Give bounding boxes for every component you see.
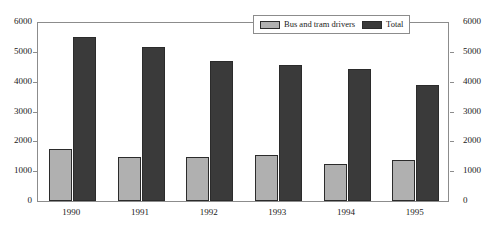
y-axis-right-tick-mark: [450, 171, 454, 172]
y-axis-left-tick-label: 2000: [2, 136, 32, 145]
y-axis-right-tick-label: 4000: [463, 77, 493, 86]
x-axis-tick-label-1990: 1990: [37, 207, 106, 217]
bar-1993-total: [279, 65, 302, 201]
y-axis-left-tick-mark: [33, 52, 37, 53]
y-axis-right-tick-label: 6000: [463, 17, 493, 26]
y-axis-left-tick-label: 1000: [2, 166, 32, 175]
bar-1991-total: [142, 47, 165, 201]
bar-1994-drivers: [324, 164, 347, 201]
bar-1992-total: [210, 61, 233, 201]
bar-1991-drivers: [118, 157, 141, 201]
y-axis-left-tick-label: 4000: [2, 77, 32, 86]
x-axis-tick-label-1992: 1992: [174, 207, 243, 217]
bar-1994-total: [348, 69, 371, 201]
legend-label: Total: [386, 20, 403, 29]
x-axis-tick-label-1993: 1993: [243, 207, 312, 217]
bar-1992-drivers: [186, 157, 209, 201]
plot-area: [37, 22, 449, 202]
bar-1993-drivers: [255, 155, 278, 201]
y-axis-left-tick-label: 3000: [2, 107, 32, 116]
legend-swatch-icon: [260, 21, 280, 29]
y-axis-left-tick-mark: [33, 141, 37, 142]
y-axis-right-tick-label: 3000: [463, 107, 493, 116]
y-axis-right-tick-label: 2000: [463, 136, 493, 145]
y-axis-right: 6000500040003000200010000: [455, 0, 487, 230]
bar-1995-total: [416, 85, 439, 201]
y-axis-right-tick-mark: [450, 141, 454, 142]
chart-legend: Bus and tram driversTotal: [253, 15, 410, 34]
legend-swatch-icon: [362, 21, 382, 29]
y-axis-left-tick-mark: [33, 112, 37, 113]
legend-item-drivers: Bus and tram drivers: [260, 20, 355, 29]
legend-item-total: Total: [362, 20, 403, 29]
y-axis-right-tick-mark: [450, 52, 454, 53]
x-axis-tick-label-1994: 1994: [312, 207, 381, 217]
y-axis-left-tick-label: 5000: [2, 47, 32, 56]
y-axis-left: 6000500040003000200010000: [0, 0, 32, 230]
bar-1990-drivers: [49, 149, 72, 201]
y-axis-right-tick-label: 5000: [463, 47, 493, 56]
y-axis-right-tick-label: 1000: [463, 166, 493, 175]
y-axis-right-tick-mark: [450, 112, 454, 113]
y-axis-right-tick-label: 0: [463, 196, 493, 205]
bar-1990-total: [73, 37, 96, 201]
y-axis-left-tick-label: 6000: [2, 17, 32, 26]
x-axis-tick-label-1991: 1991: [106, 207, 175, 217]
y-axis-right-tick-mark: [450, 82, 454, 83]
y-axis-left-tick-label: 0: [2, 196, 32, 205]
y-axis-left-tick-mark: [33, 82, 37, 83]
bar-chart: 6000500040003000200010000 60005000400030…: [0, 0, 497, 230]
x-axis-tick-label-1995: 1995: [380, 207, 449, 217]
y-axis-left-tick-mark: [33, 171, 37, 172]
bar-1995-drivers: [392, 160, 415, 201]
legend-label: Bus and tram drivers: [284, 20, 355, 29]
